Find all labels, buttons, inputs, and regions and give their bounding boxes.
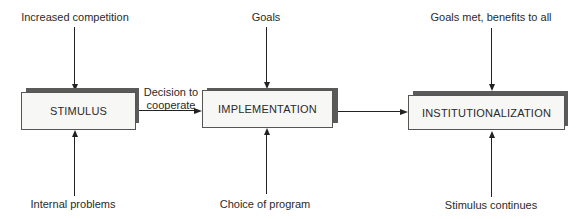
stimulus-top-connector (74, 27, 75, 85)
decision-label-line1: Decision to (140, 86, 202, 99)
implementation-box: IMPLEMENTATION (202, 90, 333, 128)
implementation-top-connector (266, 27, 267, 83)
stimulus-bottom-connector (74, 136, 75, 196)
institutionalization-box: INSTITUTIONALIZATION (408, 95, 565, 130)
stimulus-to-implementation-connector (139, 110, 195, 111)
institutionalization-box-label: INSTITUTIONALIZATION (422, 107, 551, 119)
stimulus-box: STIMULUS (21, 92, 136, 130)
stimulus-top-input-label: Increased competition (21, 11, 129, 24)
institutionalization-bottom-connector (491, 137, 492, 197)
implementation-to-institutionalization-connector (338, 111, 400, 112)
implementation-to-institutionalization-arrowhead-icon (400, 109, 408, 115)
institutionalization-top-connector (491, 28, 492, 85)
stimulus-box-label: STIMULUS (50, 105, 107, 117)
implementation-bottom-connector (266, 134, 267, 194)
institutionalization-bottom-input-label: Stimulus continues (445, 199, 537, 212)
stimulus-bottom-input-label: Internal problems (31, 198, 116, 211)
implementation-bottom-input-label: Choice of program (220, 198, 311, 211)
implementation-top-input-label: Goals (252, 11, 281, 24)
institutionalization-top-input-label: Goals met, benefits to all (430, 11, 551, 24)
implementation-box-label: IMPLEMENTATION (218, 103, 317, 115)
institutionalization-top-arrowhead-icon (489, 84, 495, 91)
decision-to-cooperate-label: Decision to cooperate (140, 86, 202, 112)
stimulus-to-implementation-arrowhead-icon (194, 108, 202, 114)
